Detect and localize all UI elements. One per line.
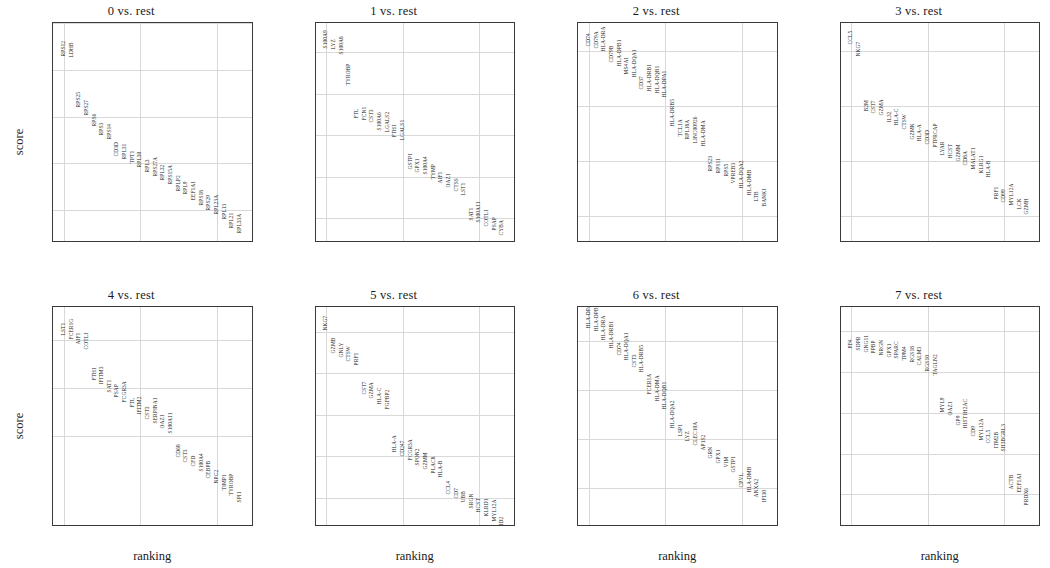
gene-label: HLA-DRB1 [647, 64, 652, 91]
gene-label: HLA-DPB1 [593, 306, 598, 331]
gene-label: CD99 [1001, 189, 1006, 202]
gene-label: UBB [461, 491, 466, 502]
gene-label: CEBPB [206, 461, 211, 479]
x-gridline [1004, 307, 1005, 525]
gene-label: RPS23 [708, 156, 713, 171]
x-axis-label: ranking [577, 549, 778, 564]
gene-label: NPC2 [214, 470, 219, 484]
y-gridline [578, 439, 777, 440]
x-tick-mark [1004, 525, 1005, 526]
gene-label: FCGR3A [122, 381, 127, 402]
gene-label: COTL1 [484, 209, 489, 226]
gene-label: TIMP1 [221, 475, 226, 491]
y-gridline [578, 216, 777, 217]
plot-area: 1015202501020CCL5NKG7B2MCST7GZMAIL32HLA-… [840, 22, 1041, 242]
y-tick-mark [315, 456, 316, 457]
gene-label: RPS6 [91, 114, 96, 127]
gene-label: NKG7 [856, 41, 861, 56]
gene-label: HLA-DRA [601, 27, 606, 52]
gene-label: LGALS1 [400, 120, 405, 141]
y-gridline [53, 70, 252, 71]
y-tick-mark [315, 497, 316, 498]
gene-label: MALAT1 [970, 147, 975, 169]
gene-label: FCGR3A [407, 440, 412, 461]
gene-label: HLA-DQA1 [624, 332, 629, 360]
gene-label: SAT1 [468, 208, 473, 221]
gene-label: RPS18 [198, 190, 203, 205]
gene-label: HLA-DRB1 [608, 321, 613, 348]
y-gridline [841, 216, 1040, 217]
panel-title: 3 vs. rest [788, 4, 1050, 19]
gene-label: GZMA [879, 99, 884, 115]
gene-label: CD9 [970, 426, 975, 436]
gene-label: ID2 [499, 516, 504, 525]
gene-label: VIM [723, 457, 728, 468]
gene-label: FGFBP2 [384, 389, 389, 409]
gene-label: RPL23A [214, 195, 219, 215]
gene-label: HLA-DPA1 [662, 71, 667, 98]
x-tick-mark [665, 525, 666, 526]
x-tick-mark [140, 525, 141, 526]
gene-label: KLRD1 [484, 499, 489, 517]
gene-label: CCL5 [986, 430, 991, 444]
gene-label: GPX1 [716, 449, 721, 463]
y-tick-mark [52, 23, 53, 24]
x-tick-mark [588, 241, 589, 242]
gene-label: HLA-B [986, 160, 991, 177]
gene-label: RPS5 [723, 163, 728, 176]
x-tick-mark [851, 241, 852, 242]
gene-label: AIF1 [438, 171, 443, 183]
gene-label: CST7 [361, 381, 366, 394]
y-gridline [578, 106, 777, 107]
gene-label: PTPRCAP [932, 123, 937, 147]
y-tick-mark [840, 331, 841, 332]
plot-area: 5.505.756.006.256.5001020PF4SDPRGNG11PPB… [840, 306, 1041, 526]
y-gridline [841, 331, 1040, 332]
gene-label: CCL5 [848, 30, 853, 44]
x-tick-mark [479, 241, 480, 242]
gene-label: CD7 [453, 488, 458, 498]
gene-label: S100A8 [338, 36, 343, 54]
gene-label: HLA-DQA2 [739, 160, 744, 188]
gene-label: RPL21 [229, 213, 234, 229]
gene-label: TYROBP [229, 474, 234, 496]
gene-label: GZMA [369, 382, 374, 398]
gene-label: HLA-DQA2 [670, 401, 675, 429]
gene-label: SAT1 [106, 380, 111, 393]
gene-label: HLA-A [917, 125, 922, 142]
x-tick-mark [851, 525, 852, 526]
gene-label: HLA-DMB [746, 170, 751, 196]
gene-label: FCER1G [68, 318, 73, 339]
figure-panel-grid: 0 vs. restscore262830323401020RPS12LDHBR… [0, 0, 1050, 568]
gene-label: HIST1H2AC [963, 399, 968, 429]
plot-area: 262830323401020S100A9LYZS100A8TYROBPFTLF… [315, 22, 516, 242]
y-gridline [316, 94, 515, 95]
y-tick-mark [315, 176, 316, 177]
gene-label: PSAP [491, 218, 496, 231]
gene-label: CD3D [114, 142, 119, 156]
gene-label: GSTP1 [407, 153, 412, 169]
gene-label: CD68 [175, 444, 180, 457]
gene-label: EEF1A1 [191, 181, 196, 200]
gene-label: PSAP [114, 384, 119, 397]
x-gridline [326, 23, 327, 241]
gene-label: S100A6 [377, 112, 382, 130]
gene-label: LCK [1016, 198, 1021, 209]
gene-label: GPX1 [415, 159, 420, 173]
y-gridline [316, 373, 515, 374]
y-gridline [578, 390, 777, 391]
gene-label: HLA-DMB [746, 466, 751, 492]
y-gridline [841, 51, 1040, 52]
gene-label: MYL12A [1009, 184, 1014, 206]
x-gridline [479, 307, 480, 525]
x-tick-mark [588, 525, 589, 526]
x-tick-mark [216, 525, 217, 526]
gene-label: HLA-B [438, 460, 443, 477]
x-gridline [665, 23, 666, 241]
y-tick-mark [840, 160, 841, 161]
y-gridline [316, 332, 515, 333]
y-tick-mark [577, 50, 578, 51]
y-gridline [578, 161, 777, 162]
gene-label: HCST [947, 144, 952, 158]
gene-label: LINC00926 [693, 116, 698, 143]
